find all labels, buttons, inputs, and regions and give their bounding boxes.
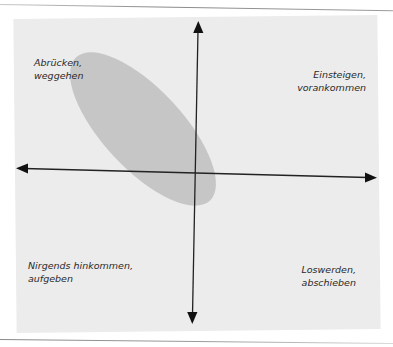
quadrant-label-top-right: Einsteigen, vorankommen bbox=[297, 69, 366, 94]
arrow-down-icon bbox=[187, 312, 197, 324]
quadrant-label-bottom-left: Nirgends hinkommen, aufgeben bbox=[28, 260, 133, 285]
label-line: abschieben bbox=[302, 277, 357, 290]
quadrant-diagram bbox=[0, 0, 393, 347]
label-line: aufgeben bbox=[28, 273, 133, 286]
label-line: Einsteigen, bbox=[297, 69, 366, 82]
quadrant-label-bottom-right: Loswerden, abschieben bbox=[302, 264, 357, 289]
arrow-left-icon bbox=[16, 164, 28, 174]
arrow-right-icon bbox=[365, 173, 377, 183]
label-line: Nirgends hinkommen, bbox=[28, 260, 133, 273]
label-line: weggehen bbox=[34, 70, 83, 83]
label-line: Loswerden, bbox=[302, 264, 357, 277]
label-line: vorankommen bbox=[297, 82, 366, 95]
quadrant-label-top-left: Abrücken, weggehen bbox=[34, 57, 83, 82]
label-line: Abrücken, bbox=[34, 57, 83, 70]
arrow-up-icon bbox=[193, 21, 203, 33]
